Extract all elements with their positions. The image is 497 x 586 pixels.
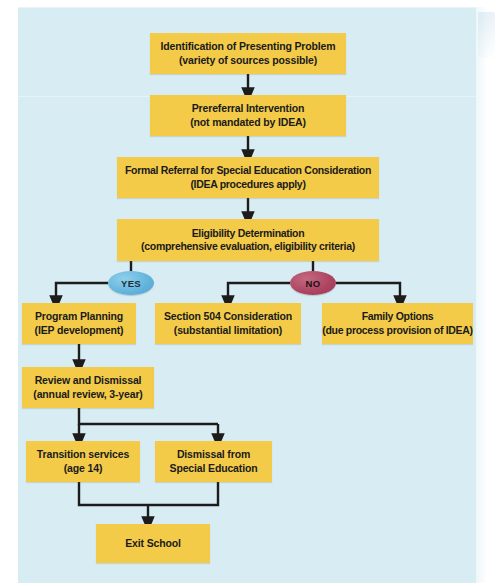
node-line-primary: Identification of Presenting Problem: [161, 40, 336, 54]
page-edge-artifact: [476, 7, 497, 583]
node-section-504-consideration[interactable]: Section 504 Consideration (substantial l…: [155, 303, 301, 344]
node-line-primary: Eligibility Determination: [192, 227, 305, 241]
decision-label-no[interactable]: NO: [290, 271, 336, 295]
node-line-primary: Program Planning: [35, 310, 123, 324]
node-program-planning[interactable]: Program Planning (IEP development): [22, 303, 136, 344]
node-prereferral-intervention[interactable]: Prereferral Intervention (not mandated b…: [150, 95, 346, 136]
node-formal-referral-for-special-education-consideration[interactable]: Formal Referral for Special Education Co…: [117, 157, 379, 198]
node-line-secondary: (IDEA procedures apply): [190, 178, 305, 192]
decision-no-text: NO: [306, 278, 321, 289]
node-line-secondary: (IEP development): [35, 324, 124, 338]
node-line-primary: Review and Dismissal: [35, 374, 142, 388]
node-line-primary: Exit School: [125, 537, 181, 551]
node-exit-school[interactable]: Exit School: [96, 524, 210, 563]
node-identification-of-presenting-problem[interactable]: Identification of Presenting Problem (va…: [150, 33, 346, 74]
node-line-primary: Prereferral Intervention: [192, 102, 305, 116]
node-line-primary: Section 504 Consideration: [164, 310, 292, 324]
node-line-secondary: (variety of sources possible): [179, 54, 317, 68]
node-line-primary: Family Options: [362, 310, 434, 324]
scan-band: [18, 7, 476, 8]
scanned-page: Identification of Presenting Problem (va…: [0, 0, 497, 586]
node-dismissal-from-special-education[interactable]: Dismissal from Special Education: [155, 441, 272, 482]
node-review-and-dismissal[interactable]: Review and Dismissal (annual review, 3-y…: [22, 367, 154, 408]
node-line-secondary: (annual review, 3-year): [33, 388, 142, 402]
node-line-secondary: (not mandated by IDEA): [190, 116, 306, 130]
node-transition-services[interactable]: Transition services (age 14): [26, 441, 140, 482]
node-line-secondary: (comprehensive evaluation, eligibility c…: [141, 240, 355, 254]
decision-yes-text: YES: [121, 278, 141, 289]
node-line-secondary: (due process provision of IDEA): [322, 324, 473, 338]
node-line-primary: Formal Referral for Special Education Co…: [125, 164, 371, 178]
node-line-primary: Transition services: [37, 448, 129, 462]
flowchart-canvas: [18, 7, 476, 583]
node-eligibility-determination[interactable]: Eligibility Determination (comprehensive…: [117, 219, 379, 261]
node-line-primary: Dismissal from: [177, 448, 250, 462]
node-line-secondary: (substantial limitation): [174, 324, 282, 338]
node-line-secondary: (age 14): [64, 462, 102, 476]
node-line-secondary: Special Education: [170, 462, 258, 476]
node-family-options[interactable]: Family Options (due process provision of…: [322, 303, 473, 344]
decision-label-yes[interactable]: YES: [108, 271, 154, 295]
scan-corner-artifact: [478, 12, 495, 58]
